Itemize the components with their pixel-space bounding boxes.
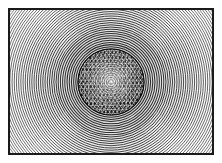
engraving-plate bbox=[0, 0, 222, 163]
figure-container: Black and white engraved plate showing d… bbox=[0, 0, 222, 163]
